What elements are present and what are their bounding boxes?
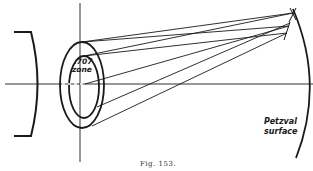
ray (82, 13, 293, 42)
zone-label-line2: zone (71, 65, 92, 74)
figure-caption: Fig. 153. (140, 160, 176, 168)
petzval-label-line2: surface (264, 127, 298, 136)
ray (92, 33, 287, 126)
ray (84, 13, 293, 56)
petzval-label-line1: Petzval (264, 117, 297, 126)
petzval-diagram: .707 zone Petzval surface Fig. 153. (0, 0, 313, 171)
ray-bundle (82, 13, 293, 126)
ray (84, 33, 287, 56)
ray (82, 26, 289, 42)
